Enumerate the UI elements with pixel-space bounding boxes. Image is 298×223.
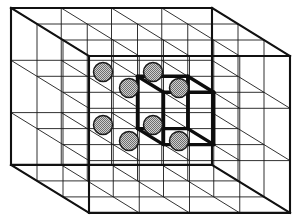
atom-back-top-right (144, 63, 163, 82)
atom-front-bottom-right (170, 132, 189, 151)
lattice-figure (0, 0, 298, 223)
atom-front-top-left (120, 79, 139, 98)
atom-back-top-left (94, 63, 113, 82)
atom-back-bottom-left (94, 116, 113, 135)
atom-back-bottom-right (144, 116, 163, 135)
lattice-diagram-svg (0, 0, 298, 223)
atom-front-top-right (170, 79, 189, 98)
atom-front-bottom-left (120, 132, 139, 151)
